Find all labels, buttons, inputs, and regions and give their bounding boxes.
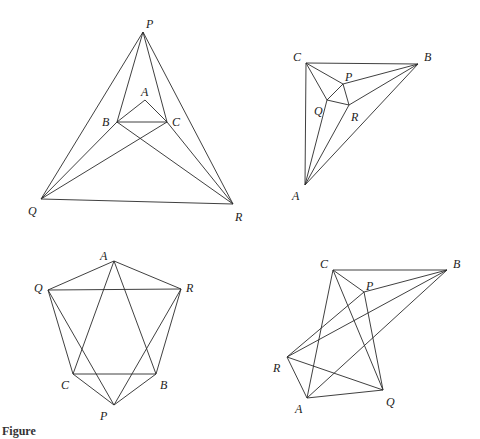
segment-PQ bbox=[327, 84, 343, 100]
point-label-A: A bbox=[140, 85, 149, 99]
segment-RP bbox=[114, 289, 181, 405]
point-label-C: C bbox=[172, 115, 181, 129]
segment-PB bbox=[117, 32, 143, 122]
fig1: PABCQR bbox=[28, 17, 243, 224]
point-label-P: P bbox=[99, 409, 108, 423]
segment-AB bbox=[307, 270, 447, 398]
segment-QC bbox=[41, 122, 167, 199]
point-label-B: B bbox=[102, 115, 110, 129]
point-label-P: P bbox=[344, 70, 353, 84]
point-label-R: R bbox=[185, 281, 194, 295]
segment-RB bbox=[156, 289, 181, 374]
segment-AQ bbox=[307, 390, 383, 398]
segment-CP bbox=[73, 374, 114, 405]
segment-QB bbox=[41, 122, 117, 199]
segment-BP bbox=[114, 374, 156, 405]
segment-PQ bbox=[41, 32, 143, 199]
segment-PR bbox=[143, 32, 233, 204]
segment-QR bbox=[327, 100, 349, 105]
point-label-P: P bbox=[145, 17, 154, 31]
segment-RC bbox=[167, 122, 233, 204]
point-label-Q: Q bbox=[386, 395, 395, 409]
point-label-C: C bbox=[293, 50, 302, 64]
fig2: CBPQRA bbox=[291, 50, 432, 203]
point-label-P: P bbox=[365, 279, 374, 293]
point-label-C: C bbox=[61, 378, 70, 392]
point-label-R: R bbox=[234, 210, 243, 224]
segment-AR bbox=[114, 261, 181, 289]
segment-AC bbox=[73, 261, 114, 374]
segment-QP bbox=[48, 290, 114, 405]
point-label-A: A bbox=[291, 189, 300, 203]
point-label-A: A bbox=[294, 402, 303, 416]
segment-RQ bbox=[287, 357, 383, 390]
segment-RP bbox=[287, 292, 364, 357]
segment-QR bbox=[48, 289, 181, 290]
segment-QR bbox=[41, 199, 233, 204]
segment-AB bbox=[305, 64, 418, 185]
segment-PR bbox=[343, 84, 349, 105]
segment-CB bbox=[306, 63, 418, 64]
point-label-B: B bbox=[424, 50, 432, 64]
point-label-Q: Q bbox=[314, 104, 323, 118]
segment-AB bbox=[114, 261, 156, 374]
point-label-Q: Q bbox=[28, 204, 37, 218]
point-label-B: B bbox=[453, 257, 461, 271]
point-label-Q: Q bbox=[34, 281, 43, 295]
figure-caption: Figure bbox=[2, 424, 36, 439]
segment-AQ bbox=[48, 261, 114, 290]
point-label-C: C bbox=[320, 257, 329, 271]
point-label-B: B bbox=[160, 378, 168, 392]
point-label-R: R bbox=[272, 361, 281, 375]
segment-RB bbox=[117, 122, 233, 204]
point-label-A: A bbox=[99, 249, 108, 263]
fig3: AQRCBP bbox=[34, 249, 194, 423]
segment-CA bbox=[305, 63, 306, 185]
segment-PB bbox=[343, 64, 418, 84]
fig4: CBPRAQ bbox=[272, 257, 461, 416]
segment-QC bbox=[48, 290, 73, 374]
segment-PC bbox=[143, 32, 167, 122]
segment-AB bbox=[117, 100, 145, 122]
point-label-R: R bbox=[350, 110, 359, 124]
segment-RB bbox=[349, 64, 418, 105]
